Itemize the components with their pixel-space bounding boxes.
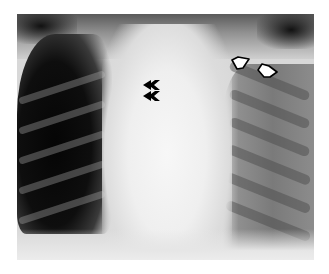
right-apex-shadow: [257, 14, 314, 49]
open-arrow-1-icon: [231, 56, 251, 71]
diaphragm-region: [17, 229, 314, 260]
arrowhead-upper-icon: [143, 80, 161, 90]
open-arrow-2-icon: [257, 63, 278, 79]
arrowhead-lower-icon: [143, 91, 161, 101]
mediastinal-opacity: [102, 24, 232, 260]
chest-xray-image: [17, 14, 314, 260]
